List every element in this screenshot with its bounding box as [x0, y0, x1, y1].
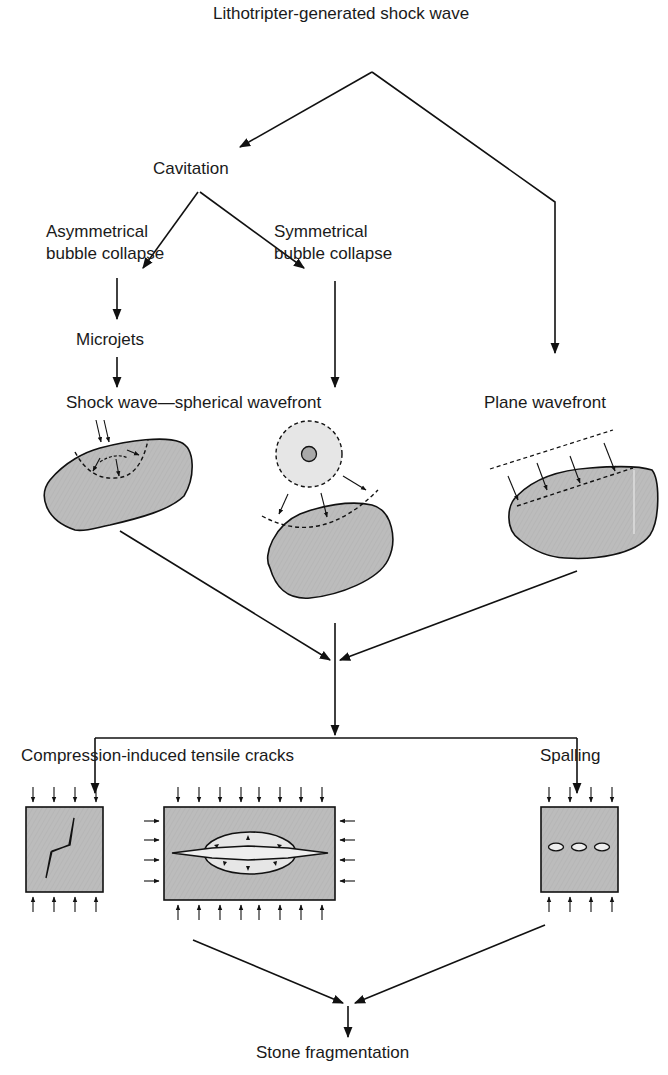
- node-spherical-wavefront: Shock wave—spherical wavefront: [66, 393, 321, 413]
- node-asym-line2: bubble collapse: [46, 243, 164, 265]
- arrow-tensile-to-result: [193, 940, 343, 1003]
- flow-diagram: [0, 0, 668, 1075]
- node-symmetrical-collapse: Symmetrical bubble collapse: [274, 221, 392, 265]
- node-tensile-cracks: Compression-induced tensile cracks: [21, 746, 294, 766]
- tensile-crack-rect-illustration: [144, 787, 355, 920]
- node-cavitation: Cavitation: [153, 159, 229, 179]
- arrow-source-to-plane: [372, 72, 555, 353]
- node-sym-line1: Symmetrical: [274, 221, 392, 243]
- node-asym-line1: Asymmetrical: [46, 221, 164, 243]
- node-microjets: Microjets: [76, 330, 144, 350]
- node-spalling: Spalling: [540, 746, 601, 766]
- stone-spherical-illustration: [262, 421, 393, 598]
- arrow-right-stone-to-merge: [340, 571, 577, 660]
- arrow-spalling-to-result: [355, 925, 545, 1003]
- node-plane-wavefront: Plane wavefront: [484, 393, 606, 413]
- node-stone-fragmentation: Stone fragmentation: [256, 1043, 409, 1063]
- stone-plane-illustration: [490, 430, 658, 558]
- spalling-illustration: [541, 787, 618, 912]
- arrow-source-to-cavitation: [240, 72, 372, 147]
- node-source: Lithotripter-generated shock wave: [213, 4, 469, 24]
- tensile-crack-square-illustration: [26, 787, 103, 912]
- node-sym-line2: bubble collapse: [274, 243, 392, 265]
- stone-microjet-illustration: [44, 420, 192, 531]
- node-asymmetrical-collapse: Asymmetrical bubble collapse: [46, 221, 164, 265]
